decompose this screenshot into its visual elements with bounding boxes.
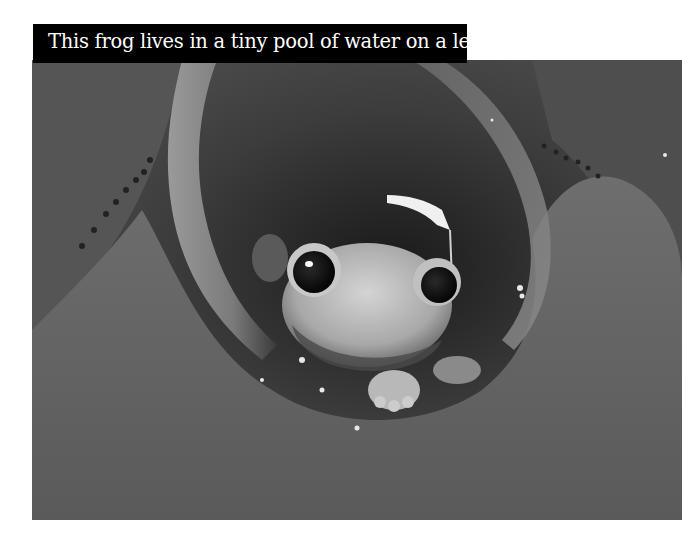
caption-text: This frog lives in a tiny pool of water … [48,30,493,53]
frog-photo-illustration [32,60,682,520]
caption-banner: This frog lives in a tiny pool of water … [33,24,467,63]
frog-photo [32,60,682,520]
